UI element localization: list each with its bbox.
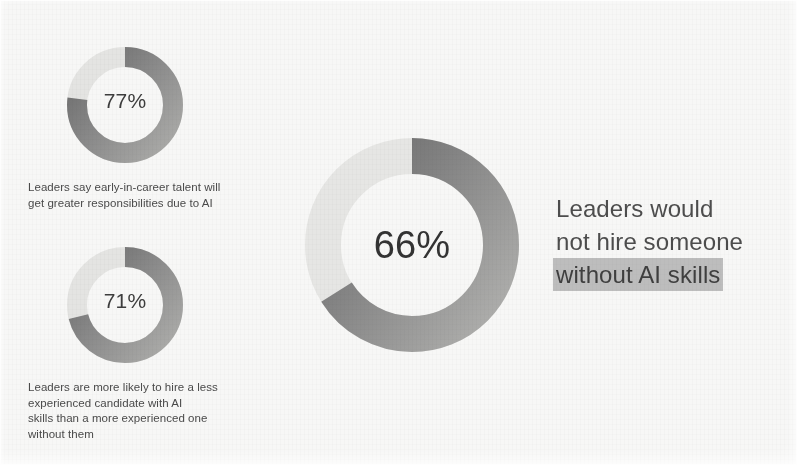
donut-77-value-label: 77% [67, 89, 183, 113]
donut-chart-71: 71% [67, 247, 183, 363]
caption-71-line-3: skills than a more experienced one [28, 411, 264, 427]
headline-line-2: not hire someone [556, 225, 788, 258]
headline-line-3-highlighted: without AI skills [556, 258, 720, 291]
caption-71-line-4: without them [28, 427, 264, 443]
headline-line-1: Leaders would [556, 192, 788, 225]
donut-66-value-label: 66% [305, 224, 519, 267]
caption-71: Leaders are more likely to hire a less e… [28, 380, 264, 442]
caption-71-line-2: experienced candidate with AI [28, 396, 264, 412]
caption-77-line-2: get greater responsibilities due to AI [28, 196, 264, 212]
donut-71-value-label: 71% [67, 289, 183, 313]
caption-77: Leaders say early-in-career talent will … [28, 180, 264, 211]
donut-chart-77: 77% [67, 47, 183, 163]
infographic-canvas: 77% Leaders say early-in-career talent w… [0, 0, 797, 465]
caption-71-line-1: Leaders are more likely to hire a less [28, 380, 264, 396]
caption-77-line-1: Leaders say early-in-career talent will [28, 180, 264, 196]
headline: Leaders would not hire someone without A… [556, 192, 788, 291]
donut-chart-66: 66% [305, 138, 519, 352]
